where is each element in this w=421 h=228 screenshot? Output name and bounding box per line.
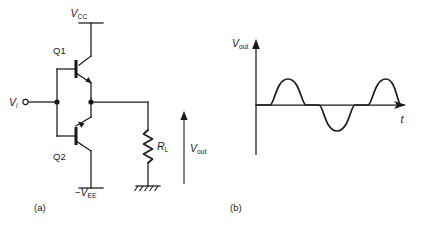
q2-emitter-lead (76, 141, 91, 151)
vi-label: Vi (9, 96, 18, 109)
input-terminal-circle[interactable] (23, 99, 28, 104)
time-axis (256, 101, 406, 109)
panel-a-caption: (a) (34, 202, 46, 213)
load-label: RL (157, 140, 169, 153)
vout-label-circuit: Vout (190, 142, 207, 155)
ground-symbol (135, 186, 161, 191)
vout-axis-label: Vout (232, 37, 249, 50)
vout-axis (252, 39, 260, 155)
q2-label: Q2 (53, 151, 66, 162)
panel-b-caption: (b) (230, 202, 242, 213)
panel-b-waveform: Vout t (b) (230, 37, 406, 213)
vout-measure-arrow (180, 111, 187, 184)
q1-collector-lead (79, 56, 91, 65)
panel-a-circuit: VCC −VEE Vi Q1 Q2 RL Vout (a) (9, 7, 207, 213)
vcc-label: VCC (71, 7, 88, 20)
figure-root: VCC −VEE Vi Q1 Q2 RL Vout (a) (0, 0, 421, 228)
time-axis-label: t (401, 113, 405, 125)
figure-svg: VCC −VEE Vi Q1 Q2 RL Vout (a) (0, 0, 421, 228)
input-node-dot (54, 99, 59, 104)
q1-label: Q1 (53, 45, 66, 56)
load-resistor-zigzag (144, 130, 153, 163)
